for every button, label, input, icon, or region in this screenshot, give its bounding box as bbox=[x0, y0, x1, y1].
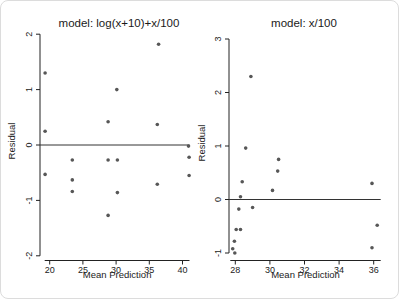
y-tick-label: -1 bbox=[213, 249, 223, 257]
y-tick-label: 1 bbox=[24, 87, 34, 92]
x-tick-label: 20 bbox=[45, 265, 55, 275]
y-axis-label: Residual bbox=[6, 123, 17, 160]
data-point bbox=[271, 189, 275, 193]
data-point bbox=[116, 191, 120, 195]
figure-canvas: model: log(x+10)+x/100-2-10122025303540M… bbox=[0, 0, 399, 299]
x-axis-label: Mean Prediction bbox=[271, 269, 340, 280]
data-point bbox=[244, 146, 248, 150]
data-point bbox=[240, 180, 244, 184]
data-point bbox=[277, 158, 281, 162]
data-point bbox=[106, 120, 110, 124]
y-tick-label: 3 bbox=[213, 36, 223, 41]
data-point bbox=[375, 223, 379, 227]
y-tick-label: -2 bbox=[24, 252, 34, 260]
data-point bbox=[71, 158, 75, 162]
y-axis-label: Residual bbox=[196, 125, 207, 162]
y-tick-label: 0 bbox=[24, 142, 34, 147]
y-tick-label: 0 bbox=[213, 197, 223, 202]
data-point bbox=[234, 228, 238, 232]
x-tick-label: 40 bbox=[177, 265, 187, 275]
data-point bbox=[239, 228, 243, 232]
data-point bbox=[233, 251, 237, 255]
data-point bbox=[71, 190, 75, 194]
plot-left: model: log(x+10)+x/100-2-10122025303540M… bbox=[6, 17, 191, 280]
data-point bbox=[251, 206, 255, 210]
data-point bbox=[187, 174, 191, 178]
y-tick-label: 1 bbox=[213, 143, 223, 148]
data-point bbox=[116, 158, 120, 162]
y-tick-label: 2 bbox=[24, 32, 34, 37]
data-point bbox=[187, 155, 191, 159]
plot-right: model: x/100-101232830323436Mean Predict… bbox=[196, 17, 381, 280]
data-point bbox=[276, 169, 280, 173]
data-point bbox=[231, 247, 235, 251]
x-axis-label: Mean Prediction bbox=[83, 269, 152, 280]
data-point bbox=[106, 214, 110, 218]
y-tick-label: -1 bbox=[24, 196, 34, 204]
data-point bbox=[43, 129, 47, 133]
data-point bbox=[43, 173, 47, 177]
residual-scatter-plots: model: log(x+10)+x/100-2-10122025303540M… bbox=[1, 1, 399, 299]
data-point bbox=[239, 195, 243, 199]
data-point bbox=[187, 144, 191, 148]
data-point bbox=[157, 42, 161, 46]
data-point bbox=[237, 207, 241, 211]
data-point bbox=[43, 71, 47, 75]
x-tick-label: 36 bbox=[369, 265, 379, 275]
x-tick-label: 28 bbox=[230, 265, 240, 275]
plot-title: model: x/100 bbox=[271, 17, 337, 29]
plot-title: model: log(x+10)+x/100 bbox=[59, 17, 180, 29]
data-point bbox=[370, 246, 374, 250]
data-point bbox=[115, 88, 119, 92]
data-point bbox=[156, 123, 160, 127]
data-point bbox=[71, 178, 75, 182]
data-point bbox=[249, 75, 253, 79]
data-point bbox=[156, 183, 160, 187]
data-point bbox=[370, 182, 374, 186]
data-point bbox=[106, 158, 110, 162]
data-point bbox=[233, 239, 237, 243]
y-tick-label: 2 bbox=[213, 90, 223, 95]
